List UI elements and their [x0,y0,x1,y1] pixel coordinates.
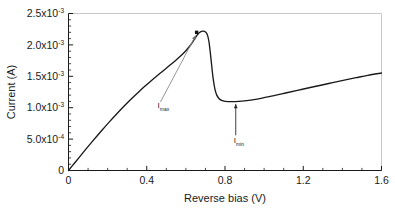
y-tick-label: 0 [58,164,64,176]
chart-figure: ImaxImin 00.40.81.21.6 05.0x10-41.0x10-3… [0,0,395,208]
y-axis-title: Current (A) [5,65,17,119]
x-tick-label: 1.6 [374,174,389,186]
x-tick-label: 1.2 [296,174,311,186]
x-tick-label: 0.8 [218,174,233,186]
x-tick-label: 0.4 [139,174,154,186]
peak-marker [195,31,198,34]
data-markers [195,31,198,34]
x-tick-label: 0 [66,174,72,186]
x-axis-title: Reverse bias (V) [184,192,266,204]
iv-curve-chart: ImaxImin 00.40.81.21.6 05.0x10-41.0x10-3… [0,0,395,208]
